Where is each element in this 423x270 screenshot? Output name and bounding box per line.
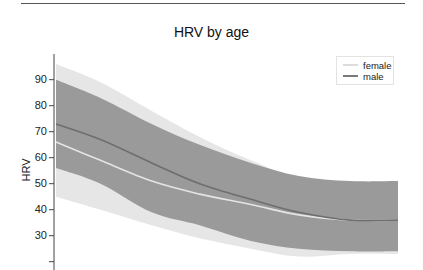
y-tick-label: 80 — [17, 99, 47, 111]
y-tick-label: 40 — [17, 203, 47, 215]
y-axis — [49, 54, 54, 270]
legend-label-female: female — [363, 60, 392, 71]
y-tick-label: 90 — [17, 73, 47, 85]
y-tick-label: 30 — [17, 229, 47, 241]
y-tick-label: 60 — [17, 151, 47, 163]
legend-swatch-male — [343, 75, 358, 77]
male-band — [56, 80, 398, 252]
legend-swatch-female — [343, 64, 358, 66]
plot-area — [0, 0, 423, 270]
legend: female male — [336, 56, 394, 85]
legend-item-male: male — [343, 70, 384, 82]
y-tick-label: 70 — [17, 125, 47, 137]
legend-label-male: male — [363, 71, 384, 82]
y-tick-label: 50 — [17, 177, 47, 189]
